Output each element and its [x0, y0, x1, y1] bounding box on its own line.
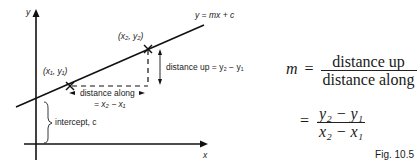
formula-equals: = — [305, 60, 314, 77]
arrow-right-icon — [139, 91, 145, 95]
distance-along-label: distance along — [80, 88, 135, 98]
point-1-label: (x₁, y₁) — [43, 66, 67, 76]
arrow-up-icon — [158, 49, 162, 55]
arrow-left-icon — [69, 91, 75, 95]
intercept-label: intercept, c — [55, 117, 97, 127]
line-equation-label: y = mx + c — [195, 10, 234, 20]
fraction-coords: y₂ − y₁ x₂ − x₁ — [317, 105, 365, 140]
point-2-label: (x₂, y₂) — [118, 31, 143, 41]
formula-m: m — [286, 60, 298, 77]
figure-caption: Fig. 10.5 — [375, 149, 414, 160]
distance-up-label: distance up = y₂ − y₁ — [166, 62, 244, 72]
fraction-numerator-words: distance up — [321, 53, 417, 71]
distance-along-expression: = x₂ − x₁ — [94, 99, 125, 109]
formula-equals-2: = — [300, 112, 309, 129]
fraction-numerator-coords: y₂ − y₁ — [317, 105, 365, 123]
fraction-denominator-coords: x₂ − x₁ — [317, 123, 365, 140]
arrow-down-icon — [158, 79, 162, 85]
y-axis-arrow-icon — [33, 9, 40, 17]
fraction-words: distance up distance along — [321, 53, 417, 88]
fraction-denominator-words: distance along — [321, 71, 417, 88]
y-axis-label: y — [26, 7, 30, 17]
intercept-brace — [44, 102, 52, 143]
formula-gradient-definition: m = distance up distance along — [286, 53, 417, 88]
x-axis-label: x — [203, 150, 207, 160]
x-axis-arrow-icon — [200, 141, 208, 148]
formula-gradient-coordinates: = y₂ − y₁ x₂ − x₁ — [300, 105, 365, 140]
